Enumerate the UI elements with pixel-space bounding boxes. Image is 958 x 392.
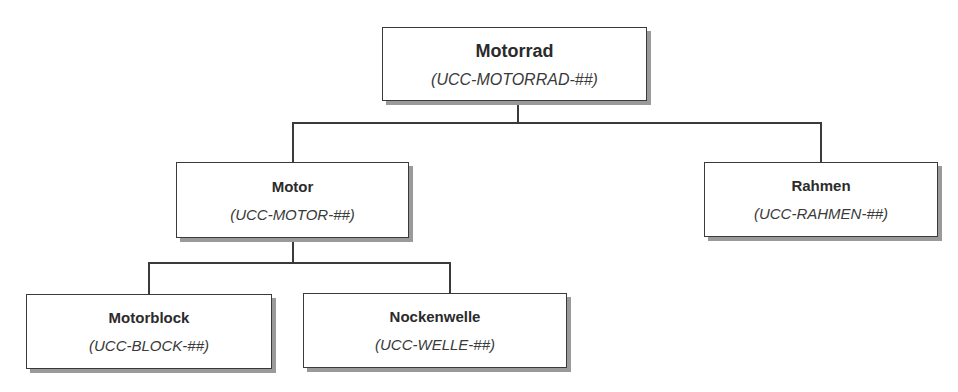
connector-root-down — [517, 101, 519, 123]
node-code: (UCC-WELLE-##) — [375, 335, 495, 354]
node-rahmen: Rahmen (UCC-RAHMEN-##) — [704, 162, 938, 237]
connector-to-rahmen — [820, 122, 822, 162]
node-code: (UCC-RAHMEN-##) — [754, 204, 888, 223]
connector-motor-down — [292, 238, 294, 263]
node-motorblock: Motorblock (UCC-BLOCK-##) — [26, 294, 272, 369]
node-code: (UCC-MOTORRAD-##) — [431, 70, 598, 89]
node-title: Motorblock — [109, 308, 190, 327]
node-code: (UCC-MOTOR-##) — [230, 205, 355, 224]
connector-to-nockenwelle — [449, 262, 451, 294]
node-title: Rahmen — [791, 176, 850, 195]
connector-level1-bar — [292, 122, 822, 124]
node-title: Motorrad — [476, 40, 554, 62]
connector-to-motor — [292, 122, 294, 162]
connector-level2-bar — [148, 262, 450, 264]
node-code: (UCC-BLOCK-##) — [89, 336, 209, 355]
node-motor: Motor (UCC-MOTOR-##) — [176, 162, 409, 238]
node-title: Motor — [272, 177, 314, 196]
node-title: Nockenwelle — [390, 307, 481, 326]
node-nockenwelle: Nockenwelle (UCC-WELLE-##) — [303, 293, 567, 368]
connector-to-motorblock — [148, 262, 150, 294]
node-motorrad: Motorrad (UCC-MOTORRAD-##) — [382, 27, 647, 101]
